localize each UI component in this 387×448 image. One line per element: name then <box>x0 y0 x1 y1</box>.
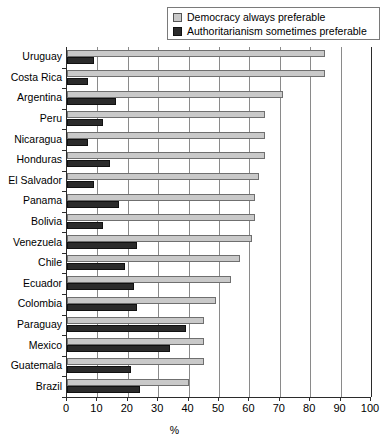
bar-democracy <box>67 276 231 283</box>
bar-group <box>67 356 371 375</box>
x-axis-tick <box>188 397 189 401</box>
y-axis-label: Chile <box>0 257 62 268</box>
x-axis-tick-label: 70 <box>273 402 285 414</box>
x-axis-title: % <box>0 424 387 436</box>
y-axis-label: Colombia <box>0 298 62 309</box>
x-axis-title-text: % <box>170 424 179 436</box>
bar-democracy <box>67 317 204 324</box>
legend-item-democracy: Democracy always preferable <box>173 10 375 24</box>
legend-swatch-dark-square-icon <box>173 27 182 36</box>
bar-democracy <box>67 297 216 304</box>
x-axis-tick <box>127 397 128 401</box>
bar-authoritarianism <box>67 325 186 332</box>
bar-group <box>67 253 371 272</box>
bar-authoritarianism <box>67 263 125 270</box>
bar-authoritarianism <box>67 98 116 105</box>
bar-authoritarianism <box>67 242 137 249</box>
y-axis-label: Brazil <box>0 381 62 392</box>
bar-democracy <box>67 338 204 345</box>
bar-authoritarianism <box>67 283 134 290</box>
bar-authoritarianism <box>67 78 88 85</box>
bar-group <box>67 150 371 169</box>
x-axis-tick-label: 30 <box>151 402 163 414</box>
bar-democracy <box>67 358 204 365</box>
x-axis-tick-label: 0 <box>63 402 69 414</box>
x-axis-tick <box>309 397 310 401</box>
x-axis-tick <box>279 397 280 401</box>
bar-democracy <box>67 194 255 201</box>
x-axis-tick-label: 60 <box>242 402 254 414</box>
y-axis-label: Venezuela <box>0 237 62 248</box>
x-axis: 0102030405060708090100 <box>66 397 370 417</box>
x-axis-tick <box>340 397 341 401</box>
bar-democracy <box>67 50 325 57</box>
bar-democracy <box>67 132 265 139</box>
bar-democracy <box>67 379 189 386</box>
x-axis-tick-label: 10 <box>90 402 102 414</box>
y-axis-label: Bolivia <box>0 216 62 227</box>
chart-legend: Democracy always preferable Authoritaria… <box>167 7 380 40</box>
bar-group <box>67 171 371 190</box>
bar-democracy <box>67 91 283 98</box>
y-axis-label: Guatemala <box>0 360 62 371</box>
y-axis-label: Uruguay <box>0 51 62 62</box>
bar-authoritarianism <box>67 345 170 352</box>
legend-item-authoritarianism: Authoritarianism sometimes preferable <box>173 24 375 38</box>
bar-authoritarianism <box>67 366 131 373</box>
bar-authoritarianism <box>67 304 137 311</box>
bar-group <box>67 68 371 87</box>
bar-authoritarianism <box>67 57 94 64</box>
bar-group <box>67 315 371 334</box>
y-axis-label: Peru <box>0 113 62 124</box>
x-axis-tick <box>370 397 371 401</box>
legend-label-authoritarianism: Authoritarianism sometimes preferable <box>187 26 367 37</box>
bar-authoritarianism <box>67 201 119 208</box>
bar-authoritarianism <box>67 119 103 126</box>
plot-area <box>66 47 371 398</box>
x-axis-tick <box>248 397 249 401</box>
bar-authoritarianism <box>67 222 103 229</box>
bar-authoritarianism <box>67 386 140 393</box>
y-axis-label: Ecuador <box>0 278 62 289</box>
x-axis-tick <box>96 397 97 401</box>
bar-group <box>67 212 371 231</box>
bar-group <box>67 232 371 251</box>
bar-democracy <box>67 235 252 242</box>
legend-swatch-light-square-icon <box>173 13 182 22</box>
bar-group <box>67 294 371 313</box>
y-axis-label: Argentina <box>0 92 62 103</box>
x-axis-tick <box>157 397 158 401</box>
bar-group <box>67 109 371 128</box>
x-axis-tick-label: 90 <box>333 402 345 414</box>
x-axis-tick-label: 80 <box>303 402 315 414</box>
bar-group <box>67 47 371 66</box>
y-axis-label: Honduras <box>0 154 62 165</box>
bar-authoritarianism <box>67 160 110 167</box>
bar-democracy <box>67 152 265 159</box>
x-axis-tick-label: 100 <box>361 402 379 414</box>
legend-label-democracy: Democracy always preferable <box>187 12 325 23</box>
bar-group <box>67 88 371 107</box>
y-axis-label: Mexico <box>0 340 62 351</box>
bar-authoritarianism <box>67 181 94 188</box>
bar-democracy <box>67 70 325 77</box>
y-axis-label: Panama <box>0 195 62 206</box>
bar-democracy <box>67 111 265 118</box>
gridline-100 <box>371 47 372 397</box>
bar-democracy <box>67 173 259 180</box>
x-axis-tick <box>66 397 67 401</box>
x-axis-tick-label: 50 <box>212 402 224 414</box>
bar-group <box>67 335 371 354</box>
y-axis-label: El Salvador <box>0 175 62 186</box>
bar-group <box>67 376 371 395</box>
bar-group <box>67 273 371 292</box>
x-axis-tick-label: 20 <box>121 402 133 414</box>
bar-democracy <box>67 214 255 221</box>
bar-group <box>67 129 371 148</box>
y-axis-label: Nicaragua <box>0 134 62 145</box>
x-axis-tick-label: 40 <box>181 402 193 414</box>
bar-authoritarianism <box>67 139 88 146</box>
y-axis-label: Paraguay <box>0 319 62 330</box>
y-axis-label: Costa Rica <box>0 72 62 83</box>
bar-group <box>67 191 371 210</box>
